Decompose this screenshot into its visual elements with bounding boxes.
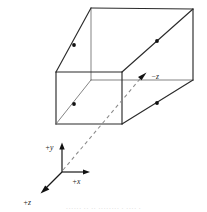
pos-y-arrowhead-icon xyxy=(59,143,64,150)
box-depth-edges xyxy=(56,8,193,124)
axis-label-pos-y: +y xyxy=(45,143,54,152)
box-back-face xyxy=(91,8,193,80)
neg-z-label: −z xyxy=(151,72,159,81)
depth-edge-top-left xyxy=(56,8,91,72)
coordinate-axes: +y +x +z xyxy=(23,143,90,208)
edge-marker-bottom-left xyxy=(72,102,76,106)
view-direction-ray xyxy=(63,73,147,171)
edge-marker-top-left xyxy=(72,43,76,47)
figure-caption: ······ ·· ·· ········ · ···· · xyxy=(0,206,207,212)
figure-container: −z +y +x +z ······ ·· ·· ········ · ····… xyxy=(0,0,207,212)
depth-edge-bottom-left xyxy=(56,80,91,124)
pos-x-arrowhead-icon xyxy=(83,169,90,174)
view-volume-diagram: −z +y +x +z xyxy=(0,0,207,212)
edge-marker-bottom-right xyxy=(155,101,159,105)
back-face-top-edge xyxy=(91,8,193,9)
edge-marker-top-right xyxy=(155,39,159,43)
axis-label-pos-x: +x xyxy=(72,177,81,186)
axis-line-pos-z xyxy=(45,172,62,189)
